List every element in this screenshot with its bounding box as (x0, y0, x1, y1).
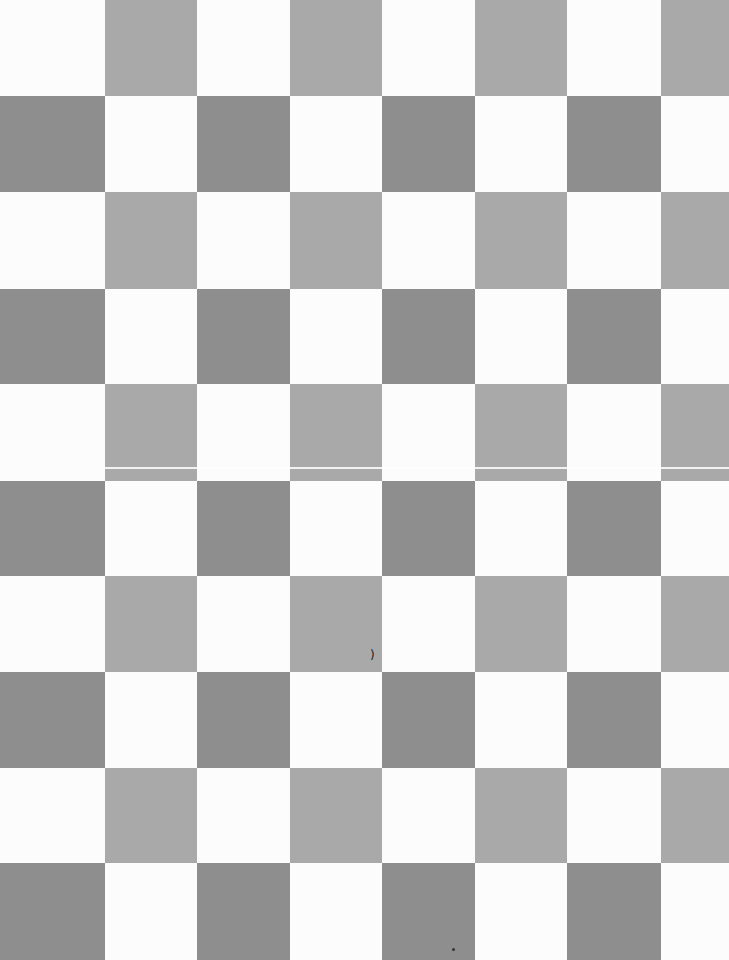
board-cell (661, 192, 729, 289)
board-cell (382, 576, 475, 672)
board-cell (0, 672, 105, 768)
board-cell (382, 481, 475, 576)
board-cell (382, 0, 475, 96)
scan-line-artifact (105, 467, 729, 469)
board-cell (0, 192, 105, 289)
board-cell (661, 768, 729, 863)
board-cell (475, 96, 567, 192)
board-cell (382, 672, 475, 768)
board-cell (661, 0, 729, 96)
board-cell (197, 768, 290, 863)
board-cell (105, 96, 197, 192)
board-cell (0, 768, 105, 863)
board-cell (197, 576, 290, 672)
board-cell (661, 672, 729, 768)
paren-mark: ) (370, 649, 375, 661)
board-cell (475, 576, 567, 672)
board-cell (290, 768, 382, 863)
board-cell (0, 384, 105, 481)
board-cell (290, 863, 382, 960)
board-cell (197, 289, 290, 384)
board-cell (567, 576, 661, 672)
board-cell (661, 863, 729, 960)
board-cell (197, 192, 290, 289)
board-cell (0, 289, 105, 384)
board-cell (661, 576, 729, 672)
board-cell (382, 768, 475, 863)
board-cell (105, 768, 197, 863)
board-cell (197, 863, 290, 960)
board-cell (567, 192, 661, 289)
board-cell (0, 481, 105, 576)
board-cell (105, 289, 197, 384)
board-cell (567, 863, 661, 960)
board-cell (290, 96, 382, 192)
board-cell (290, 0, 382, 96)
board-cell (0, 863, 105, 960)
board-cell (382, 289, 475, 384)
board-cell (197, 0, 290, 96)
board-cell (105, 192, 197, 289)
board-cell (382, 192, 475, 289)
board-cell (105, 576, 197, 672)
checkerboard (0, 0, 729, 960)
board-cell (105, 0, 197, 96)
board-cell (567, 768, 661, 863)
board-cell (661, 96, 729, 192)
board-cell (0, 576, 105, 672)
board-cell (290, 672, 382, 768)
board-cell (567, 289, 661, 384)
board-cell (475, 672, 567, 768)
board-cell (382, 96, 475, 192)
board-cell (567, 96, 661, 192)
board-cell (105, 863, 197, 960)
board-cell (475, 289, 567, 384)
board-cell (197, 672, 290, 768)
board-cell (290, 192, 382, 289)
board-cell (475, 0, 567, 96)
board-cell (567, 0, 661, 96)
board-cell (475, 863, 567, 960)
board-cell (475, 481, 567, 576)
board-cell (105, 672, 197, 768)
board-cell (475, 192, 567, 289)
board-cell (0, 96, 105, 192)
board-cell (290, 481, 382, 576)
board-cell (661, 481, 729, 576)
board-cell (382, 863, 475, 960)
board-cell (661, 289, 729, 384)
board-cell (197, 96, 290, 192)
board-cell (197, 481, 290, 576)
board-cell (0, 0, 105, 96)
board-cell (567, 672, 661, 768)
board-cell (567, 481, 661, 576)
board-cell (290, 289, 382, 384)
board-cell (475, 768, 567, 863)
dust-dot (452, 948, 455, 951)
board-cell (105, 481, 197, 576)
board-cell (290, 576, 382, 672)
